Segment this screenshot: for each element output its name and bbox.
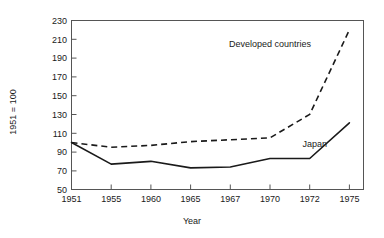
annotation-japan: Japan: [302, 139, 327, 149]
x-tick-label: 1967: [220, 194, 240, 204]
y-tick-label: 210: [52, 35, 67, 45]
plot-svg: 230 210 190 170 150 130 110 90 70 50 195…: [0, 0, 384, 238]
x-tick-label: 1955: [101, 194, 121, 204]
x-tick-label: 1960: [141, 194, 161, 204]
x-tick-label: 1975: [339, 194, 359, 204]
x-axis-ticks: [72, 185, 350, 190]
chart-container: 1951 = 100 230 210 190 170 150 130 110: [0, 0, 384, 238]
y-tick-label: 230: [52, 16, 67, 26]
x-tick-label: 1970: [260, 194, 280, 204]
y-tick-label: 90: [57, 147, 67, 157]
y-tick-label: 130: [52, 110, 67, 120]
x-axis-tick-labels: 1951 1955 1960 1965 1967 1970 1972 1975: [61, 194, 359, 204]
y-tick-label: 70: [57, 166, 67, 176]
y-tick-label: 150: [52, 91, 67, 101]
annotation-developed-countries: Developed countries: [229, 39, 312, 49]
x-tick-label: 1972: [300, 194, 320, 204]
y-tick-label: 110: [53, 129, 67, 139]
x-tick-label: 1951: [61, 194, 81, 204]
y-tick-label: 190: [52, 53, 67, 63]
x-axis-title: Year: [0, 216, 384, 226]
y-tick-label: 170: [52, 72, 67, 82]
x-tick-label: 1965: [181, 194, 201, 204]
y-axis-tick-labels: 230 210 190 170 150 130 110 90 70 50: [52, 16, 67, 195]
y-axis-ticks: [72, 21, 77, 190]
